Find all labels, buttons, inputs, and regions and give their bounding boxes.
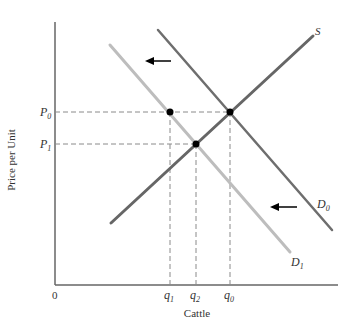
q2-label: q2 <box>190 288 200 304</box>
d1-label: D1 <box>290 255 304 271</box>
q0-label: q0 <box>224 288 234 304</box>
supply-label: S <box>315 25 321 37</box>
point-q0-p0 <box>227 109 234 116</box>
arrow-left-icon <box>145 57 171 65</box>
p0-label: P0 <box>39 105 51 121</box>
demand-curve-d1 <box>110 45 290 252</box>
point-q2-p1 <box>193 141 200 148</box>
supply-curve <box>111 36 313 223</box>
q1-label: q1 <box>164 288 174 304</box>
point-q1-p0 <box>167 109 174 116</box>
y-axis-title: Price per Unit <box>5 129 17 191</box>
p1-label: P1 <box>39 137 51 153</box>
arrow-left-icon <box>270 203 297 211</box>
origin-label: 0 <box>52 289 58 301</box>
supply-demand-diagram: P0 P1 q1 q2 q0 0 S D0 D1 Cattle Price pe… <box>0 0 345 329</box>
d0-label: D0 <box>316 197 330 213</box>
x-axis-title: Cattle <box>184 307 210 319</box>
